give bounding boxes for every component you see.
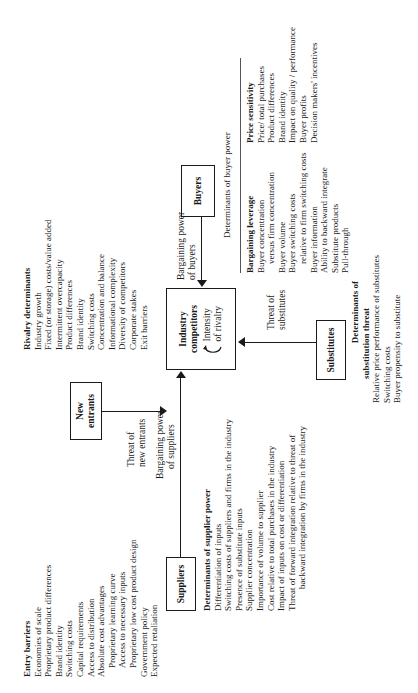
list-item: Impact of inputs on cost or differentiat… xyxy=(276,419,287,611)
price-sensitivity-list: Price sensitivity Price/ total purchases… xyxy=(245,27,319,143)
buyers-box: Buyers xyxy=(181,165,215,217)
list-item: Substitute products xyxy=(330,153,341,273)
list-item: Buyer information xyxy=(309,153,320,273)
list-item: Buyer switching costs xyxy=(287,153,298,273)
rivalry-determinants-list: Rivalry determinants Industry growth Fix… xyxy=(22,220,149,350)
list-sub-item: Proprietary low cost product design xyxy=(128,540,139,677)
label-line: of suppliers xyxy=(166,411,177,479)
list-item: Industry growth xyxy=(33,220,44,350)
list-item: Threat of forward integration relative t… xyxy=(287,419,298,611)
list-item: Concentration and balance xyxy=(96,220,107,350)
buyers-label: Buyers xyxy=(193,177,204,206)
buyers-arrow-line xyxy=(201,217,202,281)
label-line: Bargaining power xyxy=(176,212,187,280)
suppliers-box: Suppliers xyxy=(166,557,196,611)
list-item: Switching costs xyxy=(86,220,97,350)
price-sensitivity-title: Price sensitivity xyxy=(245,27,256,143)
list-item: Brand identity xyxy=(277,27,288,143)
entry-barriers-title: Entry barriers xyxy=(22,540,33,677)
substitution-threat-title: Determinants of xyxy=(350,255,361,393)
substitutes-arrow-line-vertical xyxy=(244,342,316,343)
list-item: Intermittent overcapacity xyxy=(54,220,65,350)
intensity-of-rivalry-label: Intensity of rivalry xyxy=(202,302,224,342)
bargaining-leverage-list: Bargaining leverage Buyer concentration … xyxy=(245,153,351,273)
bargaining-power-of-buyers-label: Bargaining power of buyers xyxy=(176,212,198,280)
label-line: Bargaining power xyxy=(155,411,166,479)
new-entrants-label: New entrants xyxy=(75,389,97,433)
label-line: Threat of xyxy=(266,290,277,330)
list-item: Access to distribution xyxy=(86,540,97,677)
list-item: Exit barriers xyxy=(139,220,150,350)
list-item: Brand identity xyxy=(75,220,86,350)
list-sub-item: relative to firm switching costs xyxy=(298,153,309,273)
rivalry-indicator: Intensity of rivalry xyxy=(202,302,224,357)
suppliers-arrow-line xyxy=(180,376,181,557)
list-item: Cost relative to total purchases in the … xyxy=(266,419,277,611)
entry-barriers-list: Entry barriers Economies of scale Propri… xyxy=(22,540,160,677)
list-sub-item: Proprietary learning curve xyxy=(107,540,118,677)
substitution-threat-list: Determinants of substitution threat Rela… xyxy=(350,255,403,393)
industry-competitors-box: Industry competitors Intensity of rivalr… xyxy=(166,288,236,370)
label-line: new entrants xyxy=(137,419,148,467)
bargaining-leverage-title: Bargaining leverage xyxy=(245,153,256,273)
substitutes-label: Substitutes xyxy=(326,328,337,373)
supplier-power-list: Determinants of supplier power Different… xyxy=(202,419,308,611)
list-item: Fixed (or storage) costs/value added xyxy=(43,220,54,350)
list-item: Decision makers' incentives xyxy=(309,27,320,143)
list-sub-item: backward integration by firms in the ind… xyxy=(297,419,308,611)
list-item: Product differences xyxy=(64,220,75,350)
list-item: Differentiation of inputs xyxy=(213,419,224,611)
list-sub-item: versus firm concentration xyxy=(266,153,277,273)
list-item: Brand identity xyxy=(54,540,65,677)
list-item: Ability to backward integrate xyxy=(319,153,330,273)
threat-of-substitutes-label: Threat of substitutes xyxy=(266,290,288,330)
circular-arrow-icon xyxy=(203,345,223,357)
list-item: Economies of scale xyxy=(33,540,44,677)
list-item: Diversity of competitors xyxy=(117,220,128,350)
list-item: Product differences xyxy=(266,27,277,143)
list-item: Buyer propensity to substitute xyxy=(392,255,403,403)
label-line: Threat of xyxy=(126,419,137,467)
threat-of-new-entrants-label: Threat of new entrants xyxy=(126,419,148,467)
buyer-power-divider xyxy=(240,58,241,273)
arrow-head-up-icon xyxy=(237,337,245,347)
label-line: of buyers xyxy=(187,212,198,280)
list-item: Impact on quality / performance xyxy=(287,27,298,143)
new-entrants-box: New entrants xyxy=(70,382,102,440)
list-item: Informational complexity xyxy=(107,220,118,350)
industry-competitors-label: Industry competitors xyxy=(178,296,200,362)
list-item: Buyer volume xyxy=(277,153,288,273)
list-item: Supplier concentration xyxy=(244,419,255,611)
bargaining-power-of-suppliers-label: Bargaining power of suppliers xyxy=(155,411,177,479)
list-item: Switching costs xyxy=(382,255,393,403)
list-item: Pull-through xyxy=(340,153,351,273)
list-item: Government policy xyxy=(139,540,150,677)
list-item: Expected retaliation xyxy=(149,540,160,677)
list-item: Switching costs xyxy=(64,540,75,677)
list-item: Presence of substitute inputs xyxy=(234,419,245,611)
supplier-power-title: Determinants of supplier power xyxy=(202,419,213,611)
porter-five-forces-diagram: Entry barriers Economies of scale Propri… xyxy=(0,0,418,693)
list-item: Proprietary product differences xyxy=(43,540,54,677)
list-item: Buyer concentration xyxy=(256,153,267,273)
substitutes-box: Substitutes xyxy=(316,320,346,380)
buyer-power-title: Determinants of buyer power xyxy=(222,132,233,238)
list-item: Absolute cost advantages xyxy=(96,540,107,677)
list-item: Corporate stakes xyxy=(128,220,139,350)
rivalry-determinants-title: Rivalry determinants xyxy=(22,220,33,350)
suppliers-label: Suppliers xyxy=(176,565,187,604)
list-item: Relative price performance of substitute… xyxy=(371,255,382,403)
label-line: substitutes xyxy=(277,290,288,330)
substitution-threat-title: substitution threat xyxy=(361,255,372,393)
list-item: Price/ total purchases xyxy=(256,27,267,143)
arrow-head-right-icon xyxy=(176,370,186,378)
list-item: Buyer profits xyxy=(298,27,309,143)
list-item: Importance of volume to supplier xyxy=(255,419,266,611)
list-sub-item: Access to necessary inputs xyxy=(117,540,128,677)
list-item: Switching costs of suppliers and firms i… xyxy=(223,419,234,611)
arrow-head-left-icon xyxy=(197,280,207,288)
list-item: Capital requirements xyxy=(75,540,86,677)
